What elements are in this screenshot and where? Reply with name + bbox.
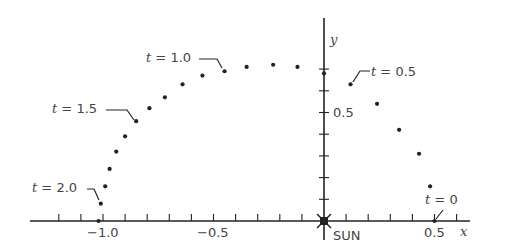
- annotation-t-1-0-text: = 1.0: [151, 50, 191, 65]
- x-tick-label-neg-0-5: −0.5: [197, 226, 229, 239]
- annotation-t-0-5-text: = 0.5: [376, 64, 416, 79]
- orbit-point: [348, 82, 352, 86]
- orbit-point: [245, 65, 249, 69]
- orbit-point: [108, 167, 112, 171]
- orbit-point: [375, 102, 379, 106]
- leader-line: [353, 71, 370, 82]
- orbit-point: [322, 71, 326, 75]
- annotation-t-1-5: t = 1.5: [52, 102, 97, 115]
- orbit-point: [200, 74, 204, 78]
- orbit-point: [96, 219, 100, 223]
- annotation-leaders: [87, 59, 443, 219]
- orbit-point: [123, 134, 127, 138]
- sun-label: SUN: [333, 229, 361, 242]
- orbit-point: [428, 184, 432, 188]
- orbit-point: [99, 202, 103, 206]
- orbit-point: [417, 152, 421, 156]
- orbit-point: [163, 95, 167, 99]
- orbit-point: [397, 128, 401, 132]
- orbit-point: [103, 184, 107, 188]
- orbit-point: [134, 119, 138, 123]
- leader-line: [436, 210, 443, 219]
- annotation-t-0-5: t = 0.5: [371, 65, 416, 78]
- y-axis-label: y: [330, 33, 337, 46]
- orbit-point: [147, 106, 151, 110]
- x-tick-label-0-5: 0.5: [424, 226, 445, 239]
- orbit-point: [271, 63, 275, 67]
- orbit-points: [96, 63, 436, 223]
- annotation-t-1-0: t = 1.0: [146, 51, 191, 64]
- annotation-t-0-text: = 0: [430, 192, 457, 207]
- orbit-point: [222, 69, 226, 73]
- annotation-t-0: t = 0: [425, 193, 458, 206]
- orbit-point: [180, 82, 184, 86]
- y-tick-label-0-5: 0.5: [333, 106, 354, 119]
- leader-line: [87, 189, 99, 200]
- annotation-t-1-5-text: = 1.5: [57, 101, 97, 116]
- orbit-point: [114, 149, 118, 153]
- annotation-t-2-0: t = 2.0: [32, 181, 77, 194]
- orbit-point: [295, 65, 299, 69]
- orbit-point: [432, 219, 436, 223]
- leader-line: [199, 59, 222, 68]
- x-axis-label: x: [460, 225, 467, 238]
- leader-line: [106, 110, 134, 120]
- orbit-plot: [0, 0, 507, 250]
- axes: [30, 18, 470, 240]
- annotation-t-2-0-text: = 2.0: [37, 180, 77, 195]
- x-tick-label-neg-1-0: −1.0: [87, 226, 119, 239]
